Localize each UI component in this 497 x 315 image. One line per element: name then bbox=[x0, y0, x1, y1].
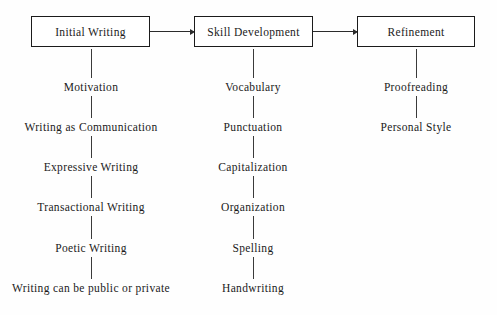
connector-skill-development-1 bbox=[253, 96, 254, 118]
stage-item-label: Spelling bbox=[229, 242, 276, 254]
connector-skill-development-0 bbox=[253, 49, 254, 78]
stage-box-label: Refinement bbox=[387, 26, 444, 38]
connector-initial-writing-3 bbox=[91, 176, 92, 198]
stage-box-initial-writing[interactable]: Initial Writing bbox=[31, 16, 150, 47]
connector-refinement-0 bbox=[416, 49, 417, 78]
stage-item-label: Expressive Writing bbox=[41, 161, 142, 173]
connector-initial-writing-1 bbox=[91, 96, 92, 118]
connector-refinement-1 bbox=[416, 96, 417, 118]
stage-item-label: Handwriting bbox=[219, 282, 287, 294]
stage-item-label: Proofreading bbox=[381, 81, 451, 93]
stage-item-label: Vocabulary bbox=[222, 81, 284, 93]
stage-item-label: Motivation bbox=[61, 81, 122, 93]
arrow-initial-to-skill bbox=[150, 31, 194, 32]
connector-skill-development-2 bbox=[253, 136, 254, 158]
stage-box-skill-development[interactable]: Skill Development bbox=[194, 16, 313, 47]
stage-item-label: Transactional Writing bbox=[34, 201, 148, 213]
stage-box-label: Skill Development bbox=[207, 26, 300, 38]
flow-diagram-canvas: Initial WritingMotivationWriting as Comm… bbox=[0, 0, 497, 315]
connector-initial-writing-4 bbox=[91, 216, 92, 239]
stage-item-label: Writing as Communication bbox=[21, 121, 160, 133]
stage-item-label: Capitalization bbox=[215, 161, 290, 173]
connector-skill-development-5 bbox=[253, 257, 254, 279]
arrow-skill-to-refinement bbox=[313, 31, 357, 32]
connector-skill-development-4 bbox=[253, 216, 254, 239]
stage-item-label: Organization bbox=[218, 201, 288, 213]
stage-item-label: Personal Style bbox=[377, 121, 454, 133]
connector-skill-development-3 bbox=[253, 176, 254, 198]
stage-box-refinement[interactable]: Refinement bbox=[357, 16, 475, 47]
connector-initial-writing-5 bbox=[91, 257, 92, 279]
stage-item-label: Writing can be public or private bbox=[9, 282, 173, 294]
stage-box-label: Initial Writing bbox=[55, 26, 126, 38]
stage-item-label: Punctuation bbox=[221, 121, 286, 133]
stage-item-label: Poetic Writing bbox=[52, 242, 130, 254]
connector-initial-writing-0 bbox=[91, 49, 92, 78]
connector-initial-writing-2 bbox=[91, 136, 92, 158]
